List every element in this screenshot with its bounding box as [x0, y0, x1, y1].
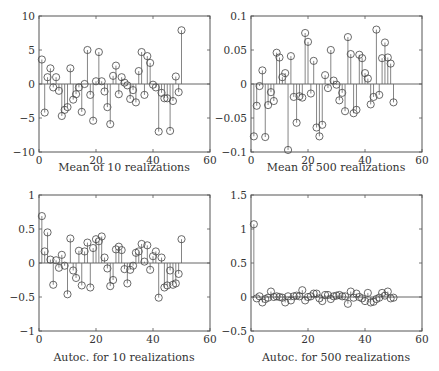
y-tick-label: 0.05 — [224, 44, 247, 56]
plot-area: 10.50−0.5−10204060 — [10, 189, 217, 345]
y-tick-label: 0 — [240, 291, 247, 303]
y-tick-label: 0.5 — [18, 223, 35, 235]
x-axis-label: Autoc. for 10 realizations — [52, 351, 195, 364]
x-tick-label: 0 — [36, 333, 43, 345]
x-tick-label: 40 — [358, 333, 371, 345]
y-tick-label: −1 — [20, 325, 35, 337]
y-tick-label: 0.5 — [230, 257, 247, 269]
x-axis-label: Mean of 500 realizations — [267, 161, 406, 174]
y-tick-label: −10 — [13, 146, 35, 158]
y-tick-label: −0.5 — [10, 291, 36, 303]
panel-mean-500: 0.10.050−0.05−0.10204060 Mean of 500 rea… — [215, 10, 429, 174]
x-tick-label: 0 — [248, 333, 255, 345]
panel-mean-10: 1050−5−100204060 Mean of 10 realizations — [13, 10, 217, 174]
x-tick-label: 60 — [203, 154, 216, 166]
x-tick-label: 40 — [146, 333, 159, 345]
x-tick-label: 60 — [415, 154, 428, 166]
figure: 1050−5−100204060 Mean of 10 realizations… — [0, 0, 439, 371]
x-tick-label: 20 — [89, 333, 102, 345]
y-tick-label: 1 — [28, 189, 35, 201]
y-tick-label: −5 — [20, 112, 35, 124]
y-tick-label: −0.1 — [222, 146, 248, 158]
y-tick-label: 0 — [28, 78, 35, 90]
x-axis-label: Autoc. for 500 realizations — [261, 351, 411, 364]
plot-area: 1.510.50−0.50204060 — [222, 189, 429, 345]
x-tick-label: 60 — [415, 333, 428, 345]
x-tick-label: 20 — [301, 333, 314, 345]
panel-autoc-10: 10.50−0.5−10204060 Autoc. for 10 realiza… — [10, 189, 217, 364]
y-tick-label: 0 — [28, 257, 35, 269]
y-tick-label: 0.1 — [230, 10, 247, 22]
plot-area: 1050−5−100204060 — [13, 10, 217, 166]
panel-autoc-500: 1.510.50−0.50204060 Autoc. for 500 reali… — [222, 189, 429, 364]
plot-area: 0.10.050−0.05−0.10204060 — [215, 10, 429, 166]
x-tick-label: 60 — [203, 333, 216, 345]
y-tick-label: 0 — [240, 78, 247, 90]
y-tick-label: 1.5 — [230, 189, 247, 201]
y-tick-label: 10 — [22, 10, 35, 22]
y-tick-label: 5 — [28, 44, 35, 56]
y-tick-label: −0.05 — [215, 112, 247, 124]
x-axis-label: Mean of 10 realizations — [58, 161, 190, 174]
axes-frame — [251, 195, 422, 331]
y-tick-label: −0.5 — [222, 325, 248, 337]
x-tick-label: 0 — [36, 154, 43, 166]
x-tick-label: 0 — [248, 154, 255, 166]
y-tick-label: 1 — [240, 223, 247, 235]
